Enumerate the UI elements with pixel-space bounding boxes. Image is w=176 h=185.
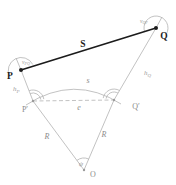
- diagram-canvas: P Q S P′ Q′ O s e R R ψ hP hQ vPQ vQP: [0, 0, 176, 185]
- label-surface-arc-s: s: [86, 76, 89, 85]
- label-q-prime: Q′: [132, 102, 140, 111]
- label-point-p: P: [7, 71, 13, 81]
- point-o-dot: [83, 169, 85, 171]
- radius-line-right: [84, 17, 162, 170]
- point-q-dot: [154, 26, 158, 30]
- geodesy-diagram: P Q S P′ Q′ O s e R R ψ hP hQ vPQ vQP: [0, 0, 176, 185]
- radius-line-left: [16, 58, 84, 170]
- label-center-o: O: [90, 170, 96, 179]
- angle-mark-q-prime-inner: [106, 92, 118, 99]
- label-chord-e: e: [77, 103, 81, 112]
- label-slope-distance: S: [80, 39, 85, 49]
- label-radius-left: R: [44, 132, 50, 141]
- label-height-hp: hP: [13, 85, 20, 94]
- chord-line: [33, 100, 114, 101]
- label-central-angle-psi: ψ: [79, 160, 84, 168]
- point-p-prime-dot: [32, 100, 34, 102]
- angle-mark-p-prime-outer: [29, 90, 44, 99]
- point-q-prime-dot: [113, 99, 115, 101]
- label-zenith-angle-vqp: vQP: [140, 18, 148, 25]
- label-p-prime: P′: [22, 105, 28, 114]
- label-height-hq: hQ: [144, 69, 152, 78]
- label-point-q: Q: [160, 31, 167, 41]
- point-p-dot: [19, 68, 23, 72]
- label-radius-right: R: [101, 130, 107, 139]
- angle-mark-q-prime-outer: [103, 89, 119, 98]
- slope-distance-line: [21, 28, 156, 70]
